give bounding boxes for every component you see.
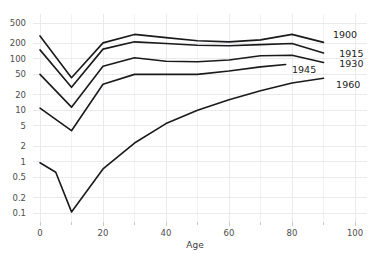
series-label-1900: 1900 (333, 29, 357, 40)
x-tick-label: 20 (98, 228, 109, 238)
y-tick-label: 1 (21, 157, 26, 167)
y-tick-label: 0.1 (12, 208, 26, 218)
line-chart-svg: 19001915193019451960 0.10.20.51251020501… (0, 0, 370, 254)
x-axis-title: Age (186, 240, 204, 250)
x-tick-label: 40 (161, 228, 172, 238)
series-label-1960: 1960 (336, 79, 360, 90)
x-tick-label: 60 (224, 228, 235, 238)
plot-background (0, 0, 370, 254)
x-tick-label: 0 (37, 228, 42, 238)
y-tick-label: 500 (10, 18, 26, 28)
y-tick-label: 50 (15, 69, 26, 79)
y-tick-label: 0.2 (12, 193, 26, 203)
series-label-1945: 1945 (292, 64, 316, 75)
y-tick-label: 5 (21, 121, 26, 131)
x-tick-label: 100 (347, 228, 363, 238)
y-tick-label: 10 (15, 105, 26, 115)
x-tick-label: 80 (287, 228, 298, 238)
y-tick-label: 100 (10, 54, 26, 64)
series-label-1930: 1930 (339, 58, 363, 69)
y-tick-label: 20 (15, 90, 26, 100)
y-tick-label: 0.5 (12, 172, 26, 182)
chart-container: 19001915193019451960 0.10.20.51251020501… (0, 0, 370, 254)
series-label-1915: 1915 (339, 48, 363, 59)
y-tick-label: 2 (21, 141, 26, 151)
y-tick-label: 200 (10, 38, 26, 48)
